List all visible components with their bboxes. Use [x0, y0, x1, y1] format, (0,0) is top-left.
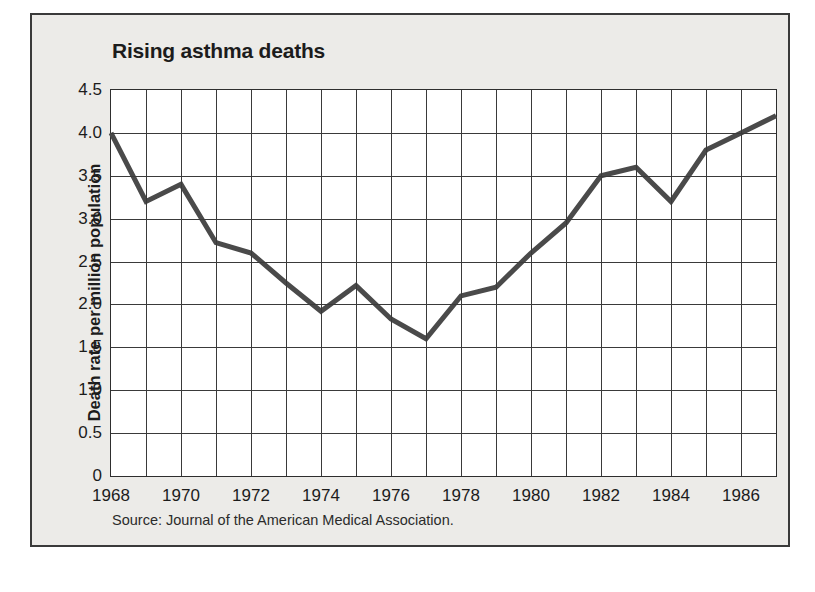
gridline-horizontal [111, 219, 776, 220]
gridline-vertical [566, 90, 567, 476]
plot-area: 00.51.01.52.02.53.03.54.04.5196819701972… [110, 89, 777, 477]
gridline-vertical [671, 90, 672, 476]
gridline-horizontal [111, 390, 776, 391]
gridline-vertical [286, 90, 287, 476]
x-tick-label: 1982 [582, 486, 620, 506]
x-tick-label: 1970 [162, 486, 200, 506]
gridline-vertical [356, 90, 357, 476]
gridline-horizontal [111, 304, 776, 305]
gridline-vertical [531, 90, 532, 476]
x-tick-label: 1976 [372, 486, 410, 506]
gridline-vertical [321, 90, 322, 476]
gridline-horizontal [111, 433, 776, 434]
gridline-vertical [426, 90, 427, 476]
x-tick-label: 1980 [512, 486, 550, 506]
y-tick-label: 0.5 [78, 423, 102, 443]
gridline-vertical [251, 90, 252, 476]
y-tick-label: 1.0 [78, 380, 102, 400]
gridline-vertical [146, 90, 147, 476]
x-tick-label: 1978 [442, 486, 480, 506]
gridline-horizontal [111, 133, 776, 134]
x-tick-label: 1974 [302, 486, 340, 506]
y-tick-label: 1.5 [78, 337, 102, 357]
gridline-horizontal [111, 347, 776, 348]
gridline-vertical [636, 90, 637, 476]
y-tick-label: 4.0 [78, 123, 102, 143]
chart-figure: Rising asthma deaths Death rate per mill… [30, 13, 790, 547]
y-tick-label: 2.0 [78, 294, 102, 314]
gridline-vertical [741, 90, 742, 476]
y-tick-label: 3.5 [78, 166, 102, 186]
x-tick-label: 1968 [92, 486, 130, 506]
x-tick-label: 1984 [652, 486, 690, 506]
gridline-vertical [496, 90, 497, 476]
y-tick-label: 2.5 [78, 252, 102, 272]
gridline-vertical [181, 90, 182, 476]
y-tick-label: 0 [93, 466, 102, 486]
data-line-series [111, 90, 776, 476]
chart-title: Rising asthma deaths [112, 39, 325, 63]
source-note: Source: Journal of the American Medical … [112, 512, 454, 528]
y-tick-label: 4.5 [78, 80, 102, 100]
gridline-vertical [706, 90, 707, 476]
gridline-vertical [601, 90, 602, 476]
gridline-vertical [461, 90, 462, 476]
y-tick-label: 3.0 [78, 209, 102, 229]
gridline-horizontal [111, 176, 776, 177]
x-tick-label: 1972 [232, 486, 270, 506]
x-tick-label: 1986 [722, 486, 760, 506]
gridline-vertical [216, 90, 217, 476]
gridline-vertical [391, 90, 392, 476]
gridline-horizontal [111, 262, 776, 263]
